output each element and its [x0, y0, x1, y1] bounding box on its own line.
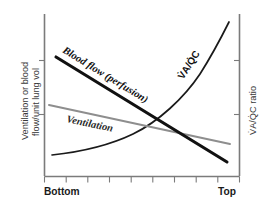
x-tick-label-bottom: Bottom	[44, 186, 80, 197]
x-axis-ticks	[45, 177, 240, 183]
blood-flow-label: Blood flow (perfusion)	[60, 44, 151, 106]
left-axis-title-line1: Ventilation or blood	[20, 62, 30, 140]
ventilation-label: Ventilation	[66, 113, 115, 134]
x-tick-label-top: Top	[218, 186, 236, 197]
right-axis-title: V̇A/Q̇C ratio	[248, 86, 258, 135]
right-axis-ticks	[234, 61, 240, 115]
left-axis-title-line2: flow/unit lung vol	[31, 68, 41, 136]
ventilation-perfusion-chart: Ventilation or blood flow/unit lung vol …	[0, 0, 274, 205]
chart-canvas: Ventilation or blood flow/unit lung vol …	[0, 0, 274, 205]
